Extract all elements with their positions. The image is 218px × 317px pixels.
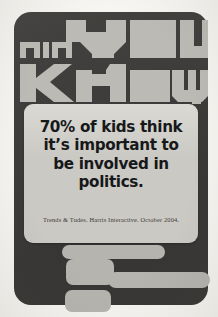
letter-n-large — [76, 64, 126, 102]
letter-o-large — [130, 20, 176, 58]
letter-k-large — [20, 64, 74, 102]
mark-shape-bar-upper — [62, 245, 165, 259]
statement-card: 70% of kids think it’s important to be i… — [24, 104, 198, 243]
statement-line: it’s important to — [40, 136, 183, 154]
letter-w-large — [172, 70, 208, 102]
statement-line: be involved in — [40, 155, 183, 173]
letter-y-large — [66, 20, 126, 58]
mark-shape-bar-lower — [108, 272, 210, 288]
mark-shape-block-lower — [65, 290, 111, 312]
mark-shape-block-upper — [66, 259, 114, 285]
statement-line: politics. — [40, 173, 183, 191]
letter-i-small — [43, 42, 49, 58]
poster-graphic: 70% of kids think it’s important to be i… — [0, 0, 218, 317]
letter-u-large — [180, 20, 208, 58]
bottom-decorative-mark — [0, 236, 218, 317]
headline-did-you-know — [14, 12, 208, 104]
glyph-question-mark — [192, 100, 201, 104]
letter-d-small-1 — [20, 42, 40, 58]
letter-o-large-2 — [130, 70, 170, 102]
letter-d-small-2 — [52, 42, 72, 58]
headline-letters — [20, 20, 208, 104]
statement-line: 70% of kids think — [40, 118, 183, 136]
source-citation: Trends & Tudes. Harris Interactive. Octo… — [24, 216, 198, 224]
statement-text: 70% of kids think it’s important to be i… — [40, 118, 183, 192]
